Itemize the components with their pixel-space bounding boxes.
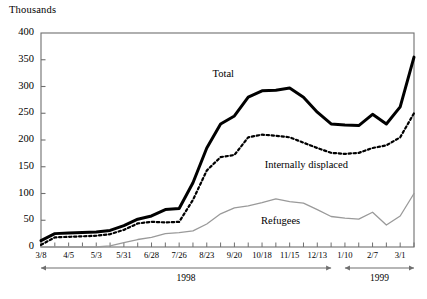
refugees-label: Refugees [261,215,300,226]
series-line-internally-displaced [41,113,414,245]
y-axis-tick-label-300: 300 [4,80,34,91]
internally-displaced-label: Internally displaced [265,159,348,170]
x-axis-tick-label-3-1: 3/1 [380,250,420,260]
total-label: Total [213,68,234,79]
y-axis-tick-label-250: 250 [4,106,34,117]
y-axis-tick-label-400: 400 [4,26,34,37]
chart-figure: Thousands 050100150200250300350400 3/84/… [0,0,427,299]
y-axis-tick-label-350: 350 [4,53,34,64]
y-axis-tick-label-50: 50 [4,213,34,224]
y-axis-tick-label-200: 200 [4,133,34,144]
y-axis-tick-label-100: 100 [4,187,34,198]
period-band-arrowhead [41,265,46,270]
plot-frame [41,33,414,247]
y-axis-tick-label-150: 150 [4,160,34,171]
period-band-arrowhead [345,265,350,270]
series-line-total [41,57,414,241]
period-band-label-1999: 1999 [354,273,404,283]
period-band-label-1998: 1998 [161,273,211,283]
period-band-arrowhead [409,265,414,270]
series-line-refugees [41,194,414,248]
period-band-arrowhead [326,265,331,270]
